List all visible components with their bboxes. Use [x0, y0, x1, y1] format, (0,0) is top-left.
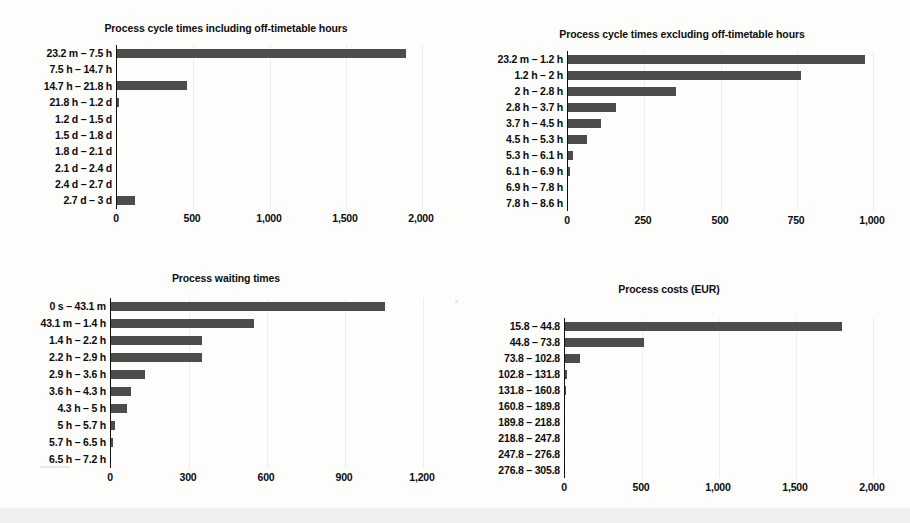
category-label: 2.7 d – 3 d — [4, 193, 112, 209]
chart-title: Process cycle times excluding off-timeta… — [467, 28, 897, 40]
chart-panel-process-cycle-times-excluding: Process cycle times excluding off-timeta… — [455, 28, 905, 258]
category-label: 1.5 d – 1.8 d — [4, 127, 112, 143]
x-tick-label: 1,500 — [332, 212, 357, 224]
category-label: 1.2 h – 2 h — [455, 67, 563, 83]
category-label: 2.9 h – 3.6 h — [4, 366, 106, 383]
bar — [111, 404, 127, 413]
category-label: 5.7 h – 6.5 h — [4, 434, 106, 451]
category-label: 4.3 h – 5 h — [4, 400, 106, 417]
category-label: 6.5 h – 7.2 h — [4, 451, 106, 468]
category-label: 21.8 h – 1.2 d — [4, 94, 112, 110]
bar — [111, 438, 113, 447]
bar-row — [568, 163, 873, 179]
bar-series — [565, 318, 874, 478]
bar — [111, 421, 115, 430]
x-tick-label: 0 — [561, 481, 567, 493]
category-label: 189.8 – 218.8 — [455, 414, 560, 430]
category-label: 247.8 – 276.8 — [455, 446, 560, 462]
bar-row — [565, 414, 874, 430]
bar-row — [117, 45, 422, 61]
category-label: 1.2 d – 1.5 d — [4, 111, 112, 127]
x-tick-label: 0 — [107, 471, 113, 483]
bar-row — [565, 366, 874, 382]
category-label: 5 h – 5.7 h — [4, 417, 106, 434]
x-tick-label: 1,200 — [409, 471, 434, 483]
category-label: 3.7 h – 4.5 h — [455, 115, 563, 131]
bar-row — [117, 127, 422, 143]
plot-wrap: 0 s – 43.1 m 43.1 m – 1.4 h 1.4 h – 2.2 … — [4, 298, 444, 468]
plot-area — [567, 51, 873, 211]
bar — [568, 87, 676, 96]
category-label: 218.8 – 247.8 — [455, 430, 560, 446]
bar — [111, 353, 202, 362]
category-label: 0 s – 43.1 m — [4, 298, 106, 315]
bar — [565, 322, 842, 331]
category-label: 1.4 h – 2.2 h — [4, 332, 106, 349]
category-label: 2.1 d – 2.4 d — [4, 160, 112, 176]
bar — [117, 81, 187, 90]
chart-panel-process-costs: Process costs (EUR) 15.8 – 44.8 44.8 – 7… — [455, 283, 905, 513]
plot-area — [110, 298, 423, 468]
bar — [117, 196, 135, 205]
bar — [565, 338, 644, 347]
bar-row — [117, 78, 422, 94]
category-label: 23.2 m – 1.2 h — [455, 51, 563, 67]
bar — [565, 386, 566, 395]
bar-row — [568, 115, 873, 131]
bar — [568, 119, 601, 128]
category-label: 2 h – 2.8 h — [455, 83, 563, 99]
category-label: 131.8 – 160.8 — [455, 382, 560, 398]
category-axis-labels: 23.2 m – 1.2 h 1.2 h – 2 h 2 h – 2.8 h 2… — [455, 51, 567, 211]
bar-row — [565, 398, 874, 414]
bar-row — [565, 430, 874, 446]
bar-row — [117, 111, 422, 127]
plot-wrap: 23.2 m – 7.5 h 7.5 h – 14.7 h 14.7 h – 2… — [4, 45, 444, 209]
bar-row — [111, 332, 423, 349]
bar-row — [111, 315, 423, 332]
x-axis: 0 250 500 750 1,000 — [567, 211, 873, 229]
chart-title: Process costs (EUR) — [459, 283, 879, 295]
bar — [568, 167, 570, 176]
x-tick-label: 0 — [113, 212, 119, 224]
x-tick-label: 0 — [564, 214, 570, 226]
x-tick-label: 500 — [184, 212, 201, 224]
bar — [111, 302, 385, 311]
bar-series — [117, 45, 422, 209]
chart-panel-process-cycle-times-including: Process cycle times including off-timeta… — [4, 22, 444, 252]
chart-title: Process cycle times including off-timeta… — [16, 22, 436, 34]
bar — [111, 387, 131, 396]
bar-row — [565, 350, 874, 366]
x-tick-label: 500 — [633, 481, 650, 493]
bar — [117, 98, 119, 107]
category-label: 3.6 h – 4.3 h — [4, 383, 106, 400]
bar — [568, 135, 587, 144]
bar-row — [565, 462, 874, 478]
bar-row — [117, 176, 422, 192]
category-label: 5.3 h – 6.1 h — [455, 147, 563, 163]
bar-row — [111, 349, 423, 366]
x-tick-label: 600 — [258, 471, 275, 483]
bar-row — [111, 434, 423, 451]
bar-row — [568, 179, 873, 195]
chart-title: Process waiting times — [16, 272, 436, 284]
bar-row — [111, 298, 423, 315]
category-label: 43.1 m – 1.4 h — [4, 315, 106, 332]
bar — [568, 71, 801, 80]
bar-row — [568, 51, 873, 67]
bar-row — [111, 400, 423, 417]
category-label: 2.4 d – 2.7 d — [4, 176, 112, 192]
bar — [568, 151, 573, 160]
category-label: 276.8 – 305.8 — [455, 462, 560, 478]
category-label: 102.8 – 131.8 — [455, 366, 560, 382]
x-tick-label: 1,500 — [782, 481, 807, 493]
bar-row — [568, 83, 873, 99]
x-axis: 0 500 1,000 1,500 2,000 — [116, 209, 422, 227]
bar-row — [565, 382, 874, 398]
bar-series — [111, 298, 423, 468]
gridline — [873, 51, 874, 211]
bar — [568, 55, 865, 64]
x-tick-label: 1,000 — [705, 481, 730, 493]
plot-area — [564, 318, 874, 478]
bar — [111, 370, 145, 379]
category-axis-labels: 15.8 – 44.8 44.8 – 73.8 73.8 – 102.8 102… — [455, 318, 564, 478]
